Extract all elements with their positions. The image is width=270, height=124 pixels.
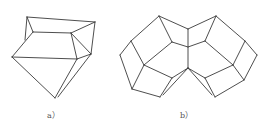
edge-line bbox=[120, 55, 132, 89]
edge-line bbox=[144, 65, 172, 78]
edge-line bbox=[188, 68, 212, 95]
edge-line bbox=[144, 42, 172, 65]
figure-a-polyhedron bbox=[12, 17, 95, 98]
edge-line bbox=[205, 16, 216, 41]
edge-line bbox=[205, 78, 215, 97]
edge-line bbox=[215, 80, 244, 97]
edge-line bbox=[159, 16, 172, 42]
edge-line bbox=[71, 33, 91, 54]
edge-line bbox=[163, 68, 188, 95]
diagram-canvas bbox=[0, 0, 270, 124]
edge-line bbox=[188, 41, 205, 47]
edge-line bbox=[172, 42, 188, 47]
edge-line bbox=[25, 17, 27, 40]
edge-line bbox=[188, 16, 216, 29]
edge-line bbox=[12, 57, 55, 98]
edge-line bbox=[27, 17, 33, 32]
edge-line bbox=[132, 65, 144, 89]
edge-line bbox=[120, 41, 131, 55]
edge-line bbox=[244, 55, 257, 80]
edge-line bbox=[159, 16, 188, 29]
edge-line bbox=[205, 65, 233, 78]
edge-line bbox=[12, 32, 33, 57]
edge-line bbox=[131, 41, 144, 65]
edge-line bbox=[233, 65, 244, 80]
figure-b-polyhedron bbox=[120, 16, 257, 97]
edge-line bbox=[58, 54, 91, 97]
edge-line bbox=[188, 68, 205, 78]
edge-line bbox=[131, 16, 159, 41]
edge-line bbox=[71, 33, 77, 59]
caption-b: b） bbox=[180, 109, 193, 120]
caption-a: a） bbox=[47, 109, 60, 120]
edge-line bbox=[55, 59, 77, 98]
edge-line bbox=[91, 22, 95, 54]
edge-line bbox=[71, 22, 95, 33]
edge-line bbox=[233, 41, 245, 65]
edge-line bbox=[216, 16, 245, 41]
edge-line bbox=[33, 32, 71, 33]
edge-line bbox=[205, 41, 233, 65]
edge-line bbox=[12, 57, 77, 59]
edge-line bbox=[132, 89, 160, 97]
edge-line bbox=[245, 41, 257, 55]
edge-line bbox=[27, 17, 95, 22]
